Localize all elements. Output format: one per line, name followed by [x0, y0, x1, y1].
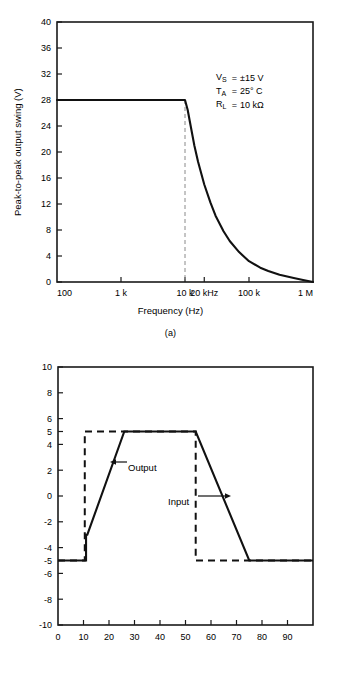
condition-value: ±15 V	[240, 71, 266, 85]
chart-a-plot: 0481216202428323640 1001 k10 k20 kHz100 …	[0, 0, 341, 300]
condition-symbol: VS	[216, 71, 229, 85]
condition-value: 25° C	[240, 85, 266, 99]
y-tick-label-b: 4	[47, 440, 52, 450]
y-tick-label-a: 20	[41, 147, 51, 157]
y-tick-label-a: 28	[41, 95, 51, 105]
y-tick-label-b: -5	[44, 556, 52, 566]
x-tick-label-b: 60	[206, 632, 216, 642]
input-waveform-label: Input	[168, 496, 189, 507]
y-tick-label-a: 12	[41, 199, 51, 209]
y-tick-label-b: -6	[44, 569, 52, 579]
x-tick-label-a: 20 kHz	[190, 288, 219, 298]
y-tick-label-b: 2	[47, 466, 52, 476]
condition-row: RL=10 kΩ	[216, 98, 266, 112]
x-tick-label-b: 50	[180, 632, 190, 642]
y-tick-label-b: 8	[47, 388, 52, 398]
conditions-annotation-a: VS=±15 VTA=25° CRL=10 kΩ	[216, 47, 266, 136]
y-tick-label-a: 32	[41, 69, 51, 79]
x-tick-label-b: 30	[129, 632, 139, 642]
y-tick-label-b: 5	[47, 427, 52, 437]
y-axis-label-a: Peak-to-peak output swing (V)	[12, 88, 23, 216]
condition-value: 10 kΩ	[240, 98, 266, 112]
x-tick-label-b: 0	[55, 632, 60, 642]
y-tick-label-b: -8	[44, 595, 52, 605]
x-tick-label-b: 40	[155, 632, 165, 642]
y-tick-label-a: 24	[41, 121, 51, 131]
y-tick-label-a: 4	[46, 251, 51, 261]
y-tick-label-a: 40	[41, 17, 51, 27]
y-tick-label-b: -10	[39, 620, 52, 630]
y-tick-label-b: -4	[44, 543, 52, 553]
x-tick-label-a: 100 k	[238, 288, 261, 298]
y-tick-label-b: 10	[42, 362, 52, 372]
y-tick-label-a: 0	[46, 277, 51, 287]
y-tick-label-b: 6	[47, 414, 52, 424]
y-tick-label-b: 0	[47, 491, 52, 501]
y-tick-label-a: 16	[41, 173, 51, 183]
x-tick-label-b: 80	[257, 632, 267, 642]
x-tick-label-b: 20	[104, 632, 114, 642]
figure-b: -10-8-6-5-4-202456810 010203040506070809…	[0, 345, 341, 689]
condition-row: TA=25° C	[216, 85, 266, 99]
x-tick-label-b: 10	[78, 632, 88, 642]
x-tick-label-a: 100	[57, 288, 72, 298]
condition-symbol: TA	[216, 85, 229, 99]
figure-a: 0481216202428323640 1001 k10 k20 kHz100 …	[0, 0, 341, 345]
condition-row: VS=±15 V	[216, 71, 266, 85]
figure-caption-a: (a)	[0, 328, 341, 338]
x-tick-label-b: 70	[231, 632, 241, 642]
x-tick-label-b: 90	[282, 632, 292, 642]
condition-equals: =	[229, 98, 240, 112]
x-tick-label-a: 1 M	[298, 288, 313, 298]
y-tick-label-a: 8	[46, 225, 51, 235]
condition-equals: =	[229, 71, 240, 85]
output-waveform-label: Output	[128, 462, 157, 473]
y-tick-label-b: -2	[44, 517, 52, 527]
condition-symbol: RL	[216, 98, 229, 112]
x-tick-label-a: 1 k	[115, 288, 128, 298]
x-axis-label-a: Frequency (Hz)	[0, 305, 341, 316]
condition-equals: =	[229, 85, 240, 99]
chart-b-plot: -10-8-6-5-4-202456810 010203040506070809…	[0, 345, 341, 645]
y-tick-label-a: 36	[41, 43, 51, 53]
